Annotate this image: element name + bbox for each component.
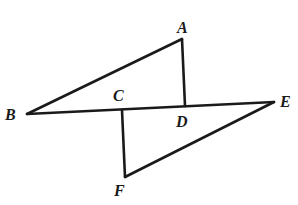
diagram-canvas: A B C D E F: [0, 0, 298, 205]
label-c: C: [113, 87, 124, 104]
segments: [27, 39, 274, 177]
label-b: B: [4, 106, 16, 123]
label-e: E: [279, 93, 291, 110]
segment-be: [27, 102, 274, 114]
segment-cf: [122, 110, 125, 177]
segment-fe: [125, 102, 274, 177]
segment-ba: [27, 39, 182, 114]
label-f: F: [113, 182, 125, 199]
segment-ad: [182, 39, 185, 106]
label-a: A: [176, 19, 188, 36]
label-d: D: [175, 113, 188, 130]
geometry-diagram: A B C D E F: [0, 0, 298, 205]
